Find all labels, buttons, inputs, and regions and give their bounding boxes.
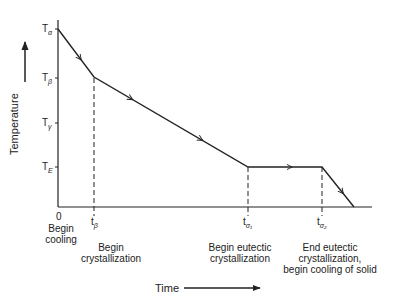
annotation-end-eutectic: End eutectic crystallization, begin cool… [283, 242, 376, 275]
tick-label-t-gamma: Tγ [42, 117, 52, 130]
x-axis-label: Time [155, 283, 179, 294]
tick-label-t-sigma1: tσ₁ [243, 216, 252, 231]
annotation-begin-eutectic: Begin eutectic crystallization [209, 242, 272, 264]
tick-label-t-sigma2: tσ₂ [317, 216, 327, 231]
annotation-begin-cooling: Begin cooling [45, 223, 77, 245]
tick-label-t-beta-x: tβ [91, 216, 98, 231]
tick-label-t-e: TE [42, 161, 53, 174]
y-axis-label: Temperature [8, 93, 20, 155]
annotation-begin-crystallization: Begin crystallization [81, 242, 141, 264]
origin-label: 0 [56, 211, 62, 222]
cooling-curve [58, 29, 354, 207]
tick-label-t-alpha: Tα [42, 23, 52, 36]
tick-label-t-beta: Tβ [42, 72, 52, 85]
